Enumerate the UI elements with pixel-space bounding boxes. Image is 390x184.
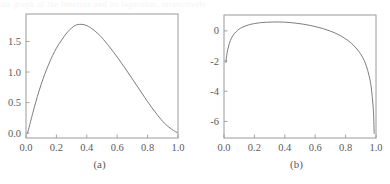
panel-b-caption: (b) bbox=[195, 158, 390, 170]
figure-container: the graph of the function and its logari… bbox=[0, 0, 390, 184]
plot-a-curve bbox=[28, 24, 178, 133]
b-xtick-label: 0.4 bbox=[278, 142, 292, 153]
b-xtick-label: 0.8 bbox=[339, 142, 352, 153]
plot-b-frame bbox=[224, 15, 376, 138]
a-ytick-label: 1.5 bbox=[8, 36, 21, 47]
b-ytick-label: -6 bbox=[210, 116, 219, 127]
b-ytick-label: -2 bbox=[210, 56, 219, 67]
b-xtick-label: 0.0 bbox=[217, 142, 230, 153]
b-xtick-label: 0.2 bbox=[248, 142, 261, 153]
a-ytick-label: 0.0 bbox=[8, 128, 21, 139]
panel-b: 0.00.20.40.60.81.0 0-2-4-6 (b) bbox=[195, 0, 390, 184]
plot-a-xticks: 0.00.20.40.60.81.0 bbox=[19, 135, 184, 154]
plot-a-axes bbox=[26, 14, 178, 138]
panel-a: 0.00.20.40.60.81.0 0.00.51.01.5 (a) bbox=[0, 0, 195, 184]
plot-b-xticks: 0.00.20.40.60.81.0 bbox=[217, 135, 382, 154]
plot-a: 0.00.20.40.60.81.0 0.00.51.01.5 bbox=[0, 0, 195, 184]
plot-b-axes bbox=[224, 15, 376, 138]
panel-a-caption: (a) bbox=[0, 158, 197, 170]
a-xtick-label: 0.6 bbox=[111, 142, 124, 153]
b-xtick-label: 1.0 bbox=[369, 142, 382, 153]
a-xtick-label: 1.0 bbox=[171, 142, 184, 153]
a-ytick-label: 1.0 bbox=[8, 67, 21, 78]
b-ytick-label: 0 bbox=[214, 25, 219, 36]
a-xtick-label: 0.0 bbox=[19, 142, 32, 153]
plot-b-yticks: 0-2-4-6 bbox=[210, 25, 227, 127]
a-ytick-label: 0.5 bbox=[8, 97, 21, 108]
plot-b: 0.00.20.40.60.81.0 0-2-4-6 bbox=[195, 0, 390, 184]
b-ytick-label: -4 bbox=[210, 86, 219, 97]
plot-a-frame bbox=[26, 14, 178, 138]
b-xtick-label: 0.6 bbox=[309, 142, 322, 153]
a-xtick-label: 0.8 bbox=[141, 142, 154, 153]
plot-b-curve bbox=[226, 22, 374, 134]
a-xtick-label: 0.2 bbox=[50, 142, 63, 153]
a-xtick-label: 0.4 bbox=[80, 142, 94, 153]
